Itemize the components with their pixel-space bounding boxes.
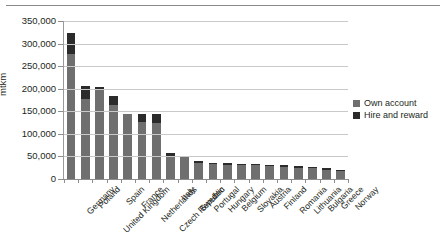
bar-segment-own-account[interactable] (280, 167, 289, 179)
bar-segment-own-account[interactable] (265, 166, 274, 179)
bar-segment-hire-and-reward[interactable] (138, 114, 147, 122)
y-axis-tick-label: 250,000 (2, 61, 56, 71)
bar-segment-own-account[interactable] (67, 54, 76, 179)
gridline (64, 134, 348, 135)
bar-segment-own-account[interactable] (166, 156, 175, 179)
bar-segment-own-account[interactable] (194, 163, 203, 179)
gridline (64, 156, 348, 157)
bar-column[interactable] (308, 167, 317, 179)
gridline (64, 44, 348, 45)
bar-segment-own-account[interactable] (180, 156, 189, 179)
bar-column[interactable] (223, 163, 232, 179)
legend-label-own-account: Own account (364, 99, 417, 108)
x-axis-tick-label: Poland (97, 185, 122, 210)
bars-layer (64, 21, 348, 179)
bar-column[interactable] (294, 166, 303, 179)
bar-segment-own-account[interactable] (123, 114, 132, 179)
bar-column[interactable] (194, 161, 203, 179)
bar-segment-own-account[interactable] (138, 122, 147, 179)
legend-swatch-icon-hire-and-reward (353, 112, 360, 119)
y-axis-tick-label: 350,000 (2, 16, 56, 26)
bar-column[interactable] (180, 156, 189, 179)
y-axis-tick (58, 156, 63, 157)
bar-segment-own-account[interactable] (237, 165, 246, 179)
y-axis-tick-label: 300,000 (2, 39, 56, 49)
legend-label-hire-and-reward: Hire and reward (364, 111, 428, 120)
bar-column[interactable] (209, 163, 218, 179)
y-axis-tick-label: 50,000 (2, 151, 56, 161)
bar-segment-own-account[interactable] (251, 165, 260, 179)
bar-segment-own-account[interactable] (223, 165, 232, 179)
bar-segment-own-account[interactable] (209, 164, 218, 179)
bar-column[interactable] (237, 164, 246, 179)
chart-figure: mtkm 050,000100,000150,000200,000250,000… (0, 0, 446, 247)
y-axis-tick (58, 44, 63, 45)
x-axis-tick-labels: GermanyPolandUnited KingdomSpainFranceNe… (64, 183, 354, 247)
bar-segment-own-account[interactable] (336, 171, 345, 179)
bar-column[interactable] (251, 164, 260, 179)
legend: Own account Hire and reward (353, 99, 428, 123)
y-axis-tick (58, 66, 63, 67)
plot-area (64, 21, 348, 179)
y-axis-tick-label: 150,000 (2, 106, 56, 116)
y-axis-tick (58, 89, 63, 90)
bar-segment-own-account[interactable] (152, 123, 161, 179)
bar-segment-own-account[interactable] (294, 168, 303, 179)
bar-segment-own-account[interactable] (322, 170, 331, 179)
y-axis-tick (58, 111, 63, 112)
gridline (64, 21, 348, 22)
bar-column[interactable] (280, 165, 289, 179)
y-axis-tick (58, 134, 63, 135)
bar-column[interactable] (152, 114, 161, 179)
bar-segment-hire-and-reward[interactable] (152, 114, 161, 123)
y-axis-tick (58, 179, 63, 180)
top-divider (6, 5, 440, 6)
bar-column[interactable] (109, 96, 118, 179)
bar-column[interactable] (138, 114, 147, 179)
bar-column[interactable] (123, 114, 132, 179)
y-axis-tick-label: 200,000 (2, 84, 56, 94)
gridline (64, 66, 348, 67)
legend-item-own-account[interactable]: Own account (353, 99, 428, 108)
bar-column[interactable] (265, 165, 274, 179)
y-axis-tick (58, 21, 63, 22)
gridline (64, 111, 348, 112)
bar-column[interactable] (322, 168, 331, 179)
bar-segment-own-account[interactable] (308, 168, 317, 179)
bar-segment-own-account[interactable] (109, 105, 118, 179)
bar-column[interactable] (81, 86, 90, 179)
bar-segment-hire-and-reward[interactable] (109, 96, 118, 105)
gridline (64, 89, 348, 90)
y-axis-tick-label: 0 (2, 174, 56, 184)
legend-swatch-icon-own-account (353, 100, 360, 107)
bar-column[interactable] (336, 170, 345, 179)
legend-item-hire-and-reward[interactable]: Hire and reward (353, 111, 428, 120)
y-axis-tick-label: 100,000 (2, 129, 56, 139)
